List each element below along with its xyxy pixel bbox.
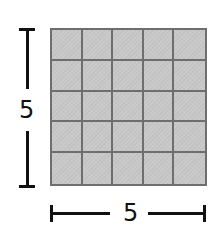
width-dimension-right-cap <box>203 205 206 222</box>
grid-cell <box>83 153 114 184</box>
grid-cell <box>144 30 175 61</box>
grid-cell <box>52 61 83 92</box>
height-dimension-bottom-cap <box>19 185 35 188</box>
square-grid <box>50 28 207 186</box>
grid-cell <box>174 61 205 92</box>
height-label: 5 <box>19 98 34 122</box>
width-dimension-line-right <box>148 212 205 215</box>
width-label: 5 <box>123 201 138 225</box>
grid-cell <box>113 92 144 123</box>
grid-cell <box>52 92 83 123</box>
grid-cell <box>144 92 175 123</box>
grid-cell <box>113 61 144 92</box>
grid-cell <box>83 30 114 61</box>
height-dimension-line-lower <box>26 131 29 187</box>
grid-cell <box>113 30 144 61</box>
grid-cell <box>174 30 205 61</box>
grid-cell <box>174 153 205 184</box>
grid-cell <box>83 61 114 92</box>
grid-cell <box>52 30 83 61</box>
grid-cell <box>52 122 83 153</box>
grid-cell <box>144 122 175 153</box>
grid-cell <box>174 92 205 123</box>
grid-cell <box>113 122 144 153</box>
grid-cell <box>144 153 175 184</box>
grid-cell <box>174 122 205 153</box>
grid-cell <box>83 122 114 153</box>
height-dimension-line-upper <box>26 28 29 89</box>
grid-cell <box>113 153 144 184</box>
grid-cell <box>83 92 114 123</box>
grid-cell <box>144 61 175 92</box>
width-dimension-line-left <box>50 212 110 215</box>
grid-cell <box>52 153 83 184</box>
